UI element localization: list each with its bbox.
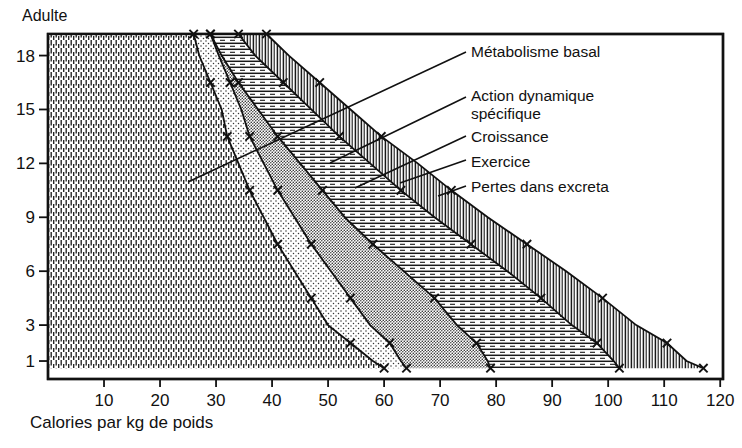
annotation-croissance: Croissance [471,128,549,145]
y-tick-label: 18 [16,47,35,66]
figure-container: 102030405060708090100110120 1369121518 M… [0,0,742,448]
x-tick-label: 90 [543,391,562,410]
x-tick-label: 100 [594,391,622,410]
x-tick-label: 110 [651,391,678,410]
y-tick-label: 3 [26,316,35,335]
annotation-pertes: Pertes dans excreta [471,178,609,195]
x-tick-label: 50 [319,391,338,410]
y-axis-ticks: 1369121518 [16,47,48,371]
y-tick-label: 6 [26,262,35,281]
y-tick-label: 12 [16,154,35,173]
x-tick-label: 60 [375,391,394,410]
annotation-exercice: Exercice [471,153,530,170]
x-tick-label: 80 [487,391,506,410]
x-axis-ticks: 102030405060708090100110120 [95,379,735,410]
adulte-label: Adulte [22,7,67,24]
x-tick-label: 10 [95,391,114,410]
x-tick-label: 30 [207,391,226,410]
annotation-action-line2: spécifique [471,105,541,122]
annotation-metabolisme: Métabolisme basal [471,43,600,60]
annotation-action-line1: Action dynamique [471,87,594,104]
y-tick-label: 9 [26,208,35,227]
x-tick-label: 40 [263,391,282,410]
x-tick-label: 20 [151,391,170,410]
x-tick-label: 120 [706,391,734,410]
calorie-requirement-chart: 102030405060708090100110120 1369121518 M… [0,0,742,448]
y-tick-label: 1 [26,352,35,371]
x-tick-label: 70 [431,391,450,410]
y-tick-label: 15 [16,100,35,119]
x-axis-title: Calories par kg de poids [30,413,213,432]
